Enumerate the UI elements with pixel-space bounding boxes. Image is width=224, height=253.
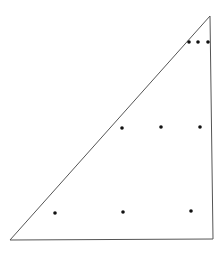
dot — [196, 40, 200, 44]
dot — [189, 209, 193, 213]
triangle-dot-diagram — [0, 0, 224, 253]
dot — [120, 126, 124, 130]
dot — [198, 125, 202, 129]
dot — [121, 210, 125, 214]
dot-grid — [53, 40, 210, 215]
dot — [187, 40, 191, 44]
dot — [53, 211, 57, 215]
right-triangle — [10, 16, 213, 240]
dot — [206, 40, 210, 44]
dot — [159, 125, 163, 129]
